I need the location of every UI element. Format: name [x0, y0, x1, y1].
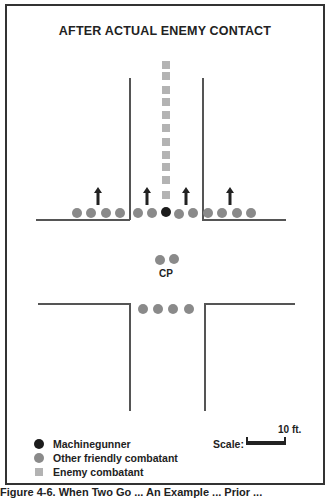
friendly-combatant-marker: [153, 304, 163, 314]
scale-label: Scale:: [213, 438, 244, 450]
street-edge-lower-left-vertical: [129, 303, 131, 411]
arrow-up-icon: [94, 187, 102, 205]
legend-item-enemy: Enemy combatant: [34, 465, 143, 479]
legend-item-friendly: Other friendly combatant: [34, 451, 178, 465]
arrow-up-icon: [182, 187, 190, 205]
friendly-combatant-marker: [133, 208, 143, 218]
scale-unit-label: 10 ft.: [278, 424, 301, 435]
friendly-combatant-marker: [115, 208, 125, 218]
street-edge-upper-right-vertical: [202, 78, 204, 220]
cp-label: CP: [159, 268, 173, 279]
enemy-combatant-marker: [162, 176, 170, 184]
cp-friendly-marker: [155, 255, 165, 265]
enemy-combatant-marker: [162, 98, 170, 106]
friendly-combatant-marker: [138, 304, 148, 314]
friendly-combatant-marker: [203, 208, 213, 218]
arrow-up-icon: [143, 187, 151, 205]
machinegunner-marker: [161, 207, 171, 217]
enemy-combatant-marker: [162, 138, 170, 146]
scale-bar: [246, 441, 286, 445]
street-edge-upper-left-vertical: [129, 78, 131, 220]
legend-label: Other friendly combatant: [53, 452, 178, 464]
legend-label: Machinegunner: [53, 438, 131, 450]
enemy-combatant-marker: [162, 61, 170, 69]
friendly-combatant-marker: [86, 208, 96, 218]
black-circle-icon: [34, 439, 44, 449]
friendly-combatant-marker: [246, 208, 256, 218]
cp-friendly-marker: [169, 254, 179, 264]
legend-label: Enemy combatant: [53, 466, 143, 478]
friendly-combatant-marker: [184, 304, 194, 314]
gray-circle-icon: [34, 453, 44, 463]
friendly-combatant-marker: [217, 208, 227, 218]
friendly-combatant-marker: [168, 304, 178, 314]
friendly-combatant-marker: [188, 208, 198, 218]
enemy-combatant-marker: [162, 163, 170, 171]
enemy-combatant-marker: [162, 86, 170, 94]
enemy-combatant-marker: [162, 151, 170, 159]
street-edge-lower-left-horizontal: [38, 303, 130, 305]
street-edge-lower-right-vertical: [204, 303, 206, 411]
legend-item-machinegunner: Machinegunner: [34, 437, 131, 451]
friendly-combatant-marker: [147, 208, 157, 218]
figure-caption: Figure 4-6. When Two Go ... An Example .…: [0, 486, 330, 498]
enemy-combatant-marker: [162, 124, 170, 132]
friendly-combatant-marker: [174, 209, 184, 219]
arrow-up-icon: [226, 187, 234, 205]
enemy-combatant-marker: [162, 191, 170, 199]
enemy-combatant-marker: [162, 72, 170, 80]
diagram-title: AFTER ACTUAL ENEMY CONTACT: [0, 24, 330, 38]
street-edge-lower-right-horizontal: [204, 303, 295, 305]
street-edge-upper-left-horizontal: [36, 219, 130, 221]
friendly-combatant-marker: [232, 208, 242, 218]
street-edge-upper-right-horizontal: [202, 219, 286, 221]
friendly-combatant-marker: [72, 208, 82, 218]
light-gray-square-icon: [35, 468, 43, 476]
enemy-combatant-marker: [162, 111, 170, 119]
friendly-combatant-marker: [101, 208, 111, 218]
